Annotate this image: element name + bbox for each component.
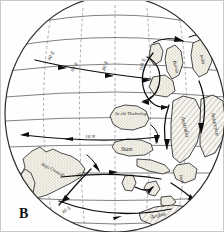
- label-siam: Siam: [121, 146, 132, 152]
- label-se-chi-thobrolog: Se chi Thobrolog: [115, 111, 147, 116]
- panel-letter: B: [19, 206, 29, 222]
- globe-body: 40 E 60 E 80 E 100 E 10 N 10 S 40 S Se c…: [1, 1, 224, 232]
- label-lat-10N: 10 N: [85, 134, 96, 139]
- figure-panel: 40 E 60 E 80 E 100 E 10 N 10 S 40 S Se c…: [0, 0, 224, 232]
- globe-diagram: 40 E 60 E 80 E 100 E 10 N 10 S 40 S Se c…: [1, 1, 224, 232]
